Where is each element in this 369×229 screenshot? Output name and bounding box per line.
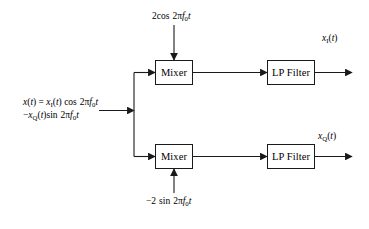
oscillator-label-bottom: −2 sin 2πf0t [146,196,191,206]
lpf-top-label: LP Filter [272,67,310,78]
mixer-block-bottom[interactable]: Mixer [155,144,193,169]
input-signal-line2: −xQ(t)sin 2πf0t [23,109,98,122]
lp-filter-block-top[interactable]: LP Filter [267,60,315,85]
input-signal-label: x(t) = xI(t) cos 2πf0t −xQ(t)sin 2πf0t [23,96,98,122]
lp-filter-block-bottom[interactable]: LP Filter [267,144,315,169]
mixer-top-label: Mixer [161,67,187,78]
input-signal-line1: x(t) = xI(t) cos 2πf0t [23,97,98,107]
oscillator-label-top: 2cos 2πf0t [152,11,191,21]
output-label-quadrature: xQ(t) [318,131,336,141]
mixer-bottom-label: Mixer [161,151,187,162]
mixer-block-top[interactable]: Mixer [155,60,193,85]
output-label-inphase: xI(t) [322,33,337,43]
block-diagram-canvas: Mixer Mixer LP Filter LP Filter 2cos 2πf… [0,0,369,229]
lpf-bottom-label: LP Filter [272,151,310,162]
